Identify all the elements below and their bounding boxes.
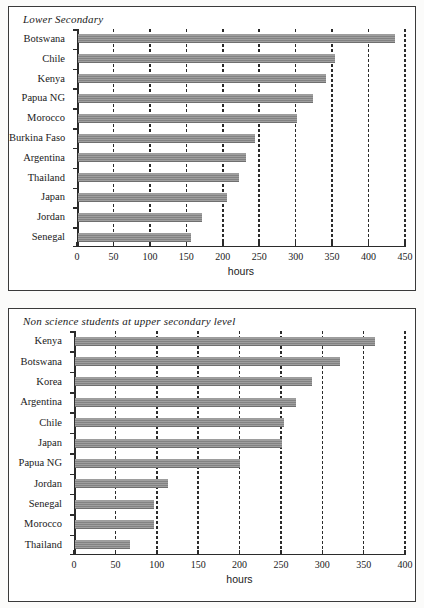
category-label-kenya: Kenya [9,336,68,347]
bar-jordan [78,213,202,222]
x-tick-150 [197,550,199,555]
x-tick-300 [295,242,297,247]
y-tick-7 [73,168,78,170]
y-tick-8 [73,188,78,190]
category-label-argentina: Argentina [9,153,71,164]
x-tick-label-250: 250 [239,252,279,262]
y-tick-1 [70,351,75,353]
bar-korea [75,377,312,386]
x-tick-200 [222,242,224,247]
category-label-chile: Chile [9,418,68,429]
x-tick-150 [186,242,188,247]
x-tick-100 [156,550,158,555]
y-tick-end [73,246,78,248]
bar-argentina [78,153,246,162]
category-label-papua-ng: Papua NG [9,458,68,469]
x-tick-label-50: 50 [93,252,133,262]
x-tick-200 [239,550,241,555]
x-tick-label-100: 100 [130,252,170,262]
bar-chile [75,418,284,427]
gridline-350 [363,331,365,555]
x-tick-label-450: 450 [385,252,424,262]
y-tick-0 [70,331,75,333]
category-label-morocco: Morocco [9,519,68,530]
category-label-kenya: Kenya [9,74,71,85]
bar-burkina-faso [78,134,255,143]
y-tick-2 [73,69,78,71]
x-tick-350 [331,242,333,247]
category-label-jordan: Jordan [9,212,71,223]
chart-panel-lower-secondary: Lower Secondary 050100150200250300350400… [8,6,416,291]
y-tick-3 [70,392,75,394]
y-tick-0 [73,29,78,31]
x-tick-label-150: 150 [166,252,206,262]
bar-botswana [75,357,340,366]
x-tick-label-400: 400 [349,252,389,262]
x-axis-title-lower-secondary: hours [181,265,301,277]
y-tick-10 [73,227,78,229]
bar-jordan [75,479,168,488]
chart-panel-non-science-upper-secondary: Non science students at upper secondary … [8,308,416,602]
category-label-korea: Korea [9,377,68,388]
bar-papua-ng [78,94,313,103]
bar-morocco [78,114,297,123]
x-tick-label-300: 300 [276,252,316,262]
x-tick-label-350: 350 [344,560,384,570]
category-label-argentina: Argentina [9,397,68,408]
bar-chile [78,54,335,63]
y-tick-4 [70,412,75,414]
bar-morocco [75,520,154,529]
category-label-thailand: Thailand [9,540,68,551]
x-tick-400 [368,242,370,247]
x-tick-label-300: 300 [302,560,342,570]
y-tick-7 [70,474,75,476]
x-axis-title-non-science: hours [180,573,300,585]
bar-senegal [78,233,191,242]
y-tick-5 [70,433,75,435]
y-tick-6 [73,148,78,150]
x-tick-50 [115,550,117,555]
chart-title-non-science-upper-secondary: Non science students at upper secondary … [23,315,235,327]
y-tick-2 [70,372,75,374]
x-tick-300 [322,550,324,555]
y-tick-10 [70,535,75,537]
category-label-japan: Japan [9,192,71,203]
x-tick-label-350: 350 [312,252,352,262]
x-tick-label-100: 100 [137,560,177,570]
x-tick-50 [113,242,115,247]
y-tick-3 [73,88,78,90]
plot-area-non-science-upper-secondary [74,331,405,555]
x-tick-250 [280,550,282,555]
bar-kenya [78,74,326,83]
chart-title-lower-secondary: Lower Secondary [23,13,103,25]
category-label-jordan: Jordan [9,479,68,490]
category-label-papua-ng: Papua NG [9,93,71,104]
x-tick-label-0: 0 [54,560,94,570]
category-label-botswana: Botswana [9,357,68,368]
y-tick-9 [70,514,75,516]
gridline-400 [368,29,370,247]
x-tick-400 [404,550,406,555]
plot-area-lower-secondary [77,29,405,247]
bar-japan [78,193,227,202]
x-tick-250 [258,242,260,247]
bar-kenya [75,337,375,346]
y-tick-1 [73,49,78,51]
bar-botswana [78,34,395,43]
x-tick-label-250: 250 [261,560,301,570]
y-tick-9 [73,207,78,209]
category-label-botswana: Botswana [9,34,71,45]
figure-page: Lower Secondary 050100150200250300350400… [0,0,424,608]
bar-thailand [75,540,130,549]
category-label-senegal: Senegal [9,232,71,243]
category-label-senegal: Senegal [9,499,68,510]
gridline-400 [404,331,406,555]
x-tick-label-150: 150 [178,560,218,570]
category-label-chile: Chile [9,54,71,65]
x-tick-100 [149,242,151,247]
bar-papua-ng [75,459,240,468]
bar-senegal [75,500,154,509]
bar-thailand [78,173,239,182]
category-label-burkina-faso: Burkina Faso [9,133,71,144]
x-tick-label-200: 200 [220,560,260,570]
